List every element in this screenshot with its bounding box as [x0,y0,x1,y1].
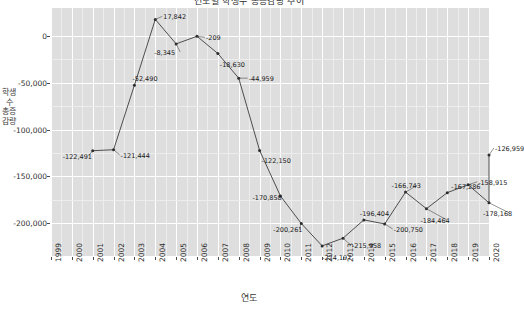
label-leader-line [176,44,180,52]
x-tick-mark [364,257,365,260]
y-tick-label: -50,000 [1,79,47,88]
x-tick-label: 2016 [409,243,418,262]
data-point-label: -200,750 [394,226,423,234]
data-point-label: -178,168 [483,210,512,218]
x-tick-mark [447,257,448,260]
y-tick-label: -150,000 [1,172,47,181]
x-tick-mark [385,257,386,260]
y-tick-label: -100,000 [1,126,47,135]
data-point-marker[interactable] [362,218,365,221]
y-tick-label: -200,000 [1,219,47,228]
x-tick-label: 2008 [242,243,251,262]
label-leader-line [114,150,120,155]
x-tick-label: 2002 [117,243,126,262]
y-tick-mark [47,83,50,84]
y-tick-label: 0 [1,32,47,41]
data-point-label: -166,743 [392,182,421,190]
x-axis-title: 연도 [0,291,498,304]
x-tick-label: 2020 [492,243,501,262]
x-tick-label: 2012 [325,243,334,262]
x-tick-label: 2019 [471,243,480,262]
x-tick-label: 2011 [304,243,313,262]
x-tick-label: 2017 [429,243,438,262]
data-point-label: -196,404 [360,210,389,218]
x-tick-mark [114,257,115,260]
data-point-marker[interactable] [216,52,219,55]
data-point-marker[interactable] [258,149,261,152]
y-tick-mark [47,223,50,224]
x-tick-mark [51,257,52,260]
data-point-label: -170,858 [252,194,281,202]
x-tick-label: 2005 [179,243,188,262]
data-point-marker[interactable] [446,191,449,194]
data-point-label: -209 [206,34,221,42]
x-tick-mark [406,257,407,260]
data-point-label: -121,444 [121,152,150,160]
data-point-label: -200,261 [273,226,302,234]
chart-title: 연도별 학생수 총증감량 추이 [0,0,498,7]
x-tick-mark [134,257,135,260]
x-tick-label: 2003 [137,243,146,262]
data-point-label: -184,464 [420,217,449,225]
x-tick-mark [489,257,490,260]
x-tick-mark [426,257,427,260]
data-point-label: -8,345 [154,49,175,57]
y-tick-mark [47,36,50,37]
data-point-label: -122,150 [262,157,291,165]
data-point-label: -158,915 [478,179,507,187]
x-tick-label: 2009 [263,243,272,262]
x-tick-mark [343,257,344,260]
x-tick-mark [155,257,156,260]
x-tick-mark [93,257,94,260]
x-tick-label: 2007 [221,243,230,262]
x-tick-mark [218,257,219,260]
data-point-marker[interactable] [133,84,136,87]
data-point-label: -52,490 [132,75,157,83]
x-tick-label: 2006 [200,243,209,262]
gridline-vertical [489,8,490,256]
y-tick-mark [47,176,50,177]
x-tick-label: 2001 [96,243,105,262]
x-tick-label: 2013 [346,243,355,262]
y-tick-mark [47,130,50,131]
data-point-label: -126,959 [495,145,524,153]
x-tick-label: 2014 [367,243,376,262]
x-tick-label: 2018 [450,243,459,262]
label-leader-line [385,224,393,229]
x-tick-mark [197,257,198,260]
data-point-marker[interactable] [321,244,324,247]
x-tick-mark [301,257,302,260]
x-tick-label: 1999 [54,243,63,262]
x-tick-mark [322,257,323,260]
data-point-label: -122,491 [63,153,92,161]
y-axis-title: 학생수 총증감량 [2,88,16,126]
data-point-label: -18,630 [220,61,245,69]
x-tick-mark [280,257,281,260]
data-point-label: -167,286 [451,183,480,191]
x-tick-label: 2015 [388,243,397,262]
x-tick-label: 2004 [158,243,167,262]
label-leader-line [155,16,162,19]
x-tick-label: 2010 [283,243,292,262]
x-tick-label: 2000 [75,243,84,262]
x-tick-mark [468,257,469,260]
data-point-label: -44,959 [249,75,274,83]
x-tick-mark [176,257,177,260]
x-tick-mark [72,257,73,260]
data-point-label: 17,842 [163,13,186,21]
x-tick-mark [260,257,261,260]
series-line [93,19,489,246]
x-tick-mark [239,257,240,260]
